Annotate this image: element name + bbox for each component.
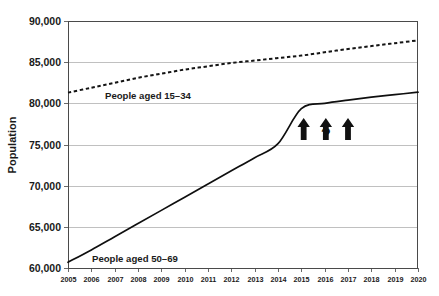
y-tick-label: 75,000: [29, 139, 61, 151]
series-label-upper: People aged 15–34: [105, 90, 192, 101]
y-axis-title: Population: [6, 116, 18, 173]
x-tick-label: 2005: [61, 275, 77, 284]
x-tick-label: 2020: [411, 275, 427, 284]
x-tick-label: 2017: [341, 275, 357, 284]
population-line-chart: 60,00065,00070,00075,00080,00085,00090,0…: [0, 0, 439, 296]
question-mark-annotation: ?: [321, 126, 331, 143]
x-tick-label: 2010: [178, 275, 194, 284]
x-tick-label: 2016: [318, 275, 334, 284]
x-tick-label: 2008: [131, 275, 147, 284]
y-tick-label: 90,000: [29, 15, 61, 27]
x-tick-label: 2018: [364, 275, 380, 284]
x-tick-label: 2007: [108, 275, 124, 284]
chart-canvas: 60,00065,00070,00075,00080,00085,00090,0…: [0, 0, 439, 296]
x-tick-label: 2015: [294, 275, 310, 284]
x-tick-label: 2019: [388, 275, 404, 284]
x-tick-label: 2013: [248, 275, 264, 284]
x-tick-label: 2012: [224, 275, 240, 284]
x-tick-label: 2011: [201, 275, 217, 284]
x-tick-label: 2006: [84, 275, 100, 284]
y-tick-label: 65,000: [29, 221, 61, 233]
plot-area: [68, 21, 418, 268]
x-tick-label: 2014: [271, 275, 287, 284]
y-tick-label: 70,000: [29, 180, 61, 192]
y-tick-label: 80,000: [29, 97, 61, 109]
series-label-lower: People aged 50–69: [92, 253, 178, 264]
y-tick-label: 60,000: [29, 262, 61, 274]
y-tick-label: 85,000: [29, 56, 61, 68]
x-tick-label: 2009: [154, 275, 170, 284]
